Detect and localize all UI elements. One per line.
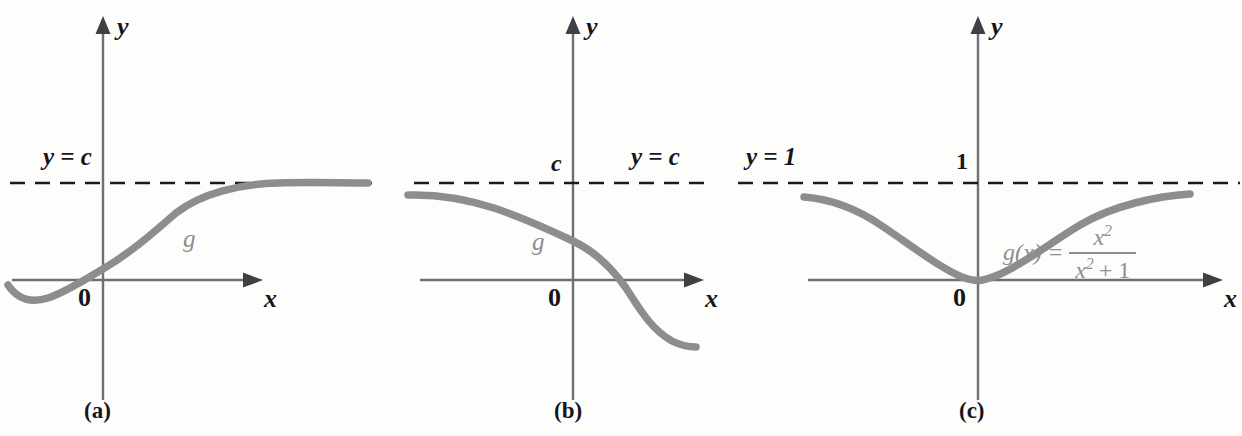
asymptote-label-text: y = c <box>631 143 680 170</box>
asymptote-figure: y x 0 y = c g (a) y x 0 c y = c g (b) <box>0 0 1242 436</box>
formula-denominator-rest: + 1 <box>1099 257 1131 283</box>
y-tick-label-c: c <box>551 150 562 177</box>
asymptote-label: y = c <box>43 143 92 171</box>
formula-numerator-exponent: 2 <box>1104 222 1112 239</box>
formula-numerator-base: x <box>1093 224 1104 250</box>
formula-numerator: x2 <box>1087 222 1118 252</box>
asymptote-label: y = 1 <box>746 143 796 171</box>
x-axis-label: x <box>264 284 277 314</box>
y-axis-label: y <box>586 12 598 42</box>
panel-a-graphic <box>0 0 414 436</box>
origin-label: 0 <box>78 283 91 313</box>
formula-lhs: g(x) <box>1003 239 1042 266</box>
panel-c-graphic <box>828 0 1242 436</box>
curve-label-g: g <box>532 228 545 256</box>
asymptote-label: y = c <box>631 143 680 171</box>
panel-caption: (c) <box>959 398 985 424</box>
formula-denominator-exponent: 2 <box>1086 255 1094 272</box>
asymptote-label-text: y = c <box>43 143 92 170</box>
panel-caption: (b) <box>554 398 582 424</box>
curve-g <box>408 195 696 347</box>
x-axis-label: x <box>705 284 718 314</box>
panel-b-graphic <box>414 0 828 436</box>
formula-equals: = <box>1049 239 1063 266</box>
formula-denominator: x2+ 1 <box>1069 254 1136 284</box>
x-axis-arrow <box>243 273 263 288</box>
x-axis-arrow <box>1203 273 1223 288</box>
formula-denominator-base: x <box>1075 257 1086 283</box>
panel-caption: (a) <box>84 398 111 424</box>
asymptote-label-text: y = 1 <box>746 143 796 170</box>
y-axis-arrow <box>566 16 581 34</box>
formula-fraction: x2 x2+ 1 <box>1069 222 1136 284</box>
origin-label: 0 <box>548 283 561 313</box>
panel-c: y x 0 1 y = 1 g(x) = x2 x2+ 1 (c) <box>828 0 1242 436</box>
x-axis-label: x <box>1224 284 1237 314</box>
origin-label: 0 <box>953 283 966 313</box>
panel-a: y x 0 y = c g (a) <box>0 0 414 436</box>
panel-b: y x 0 c y = c g (b) <box>414 0 828 436</box>
y-axis-label: y <box>991 12 1003 42</box>
function-formula: g(x) = x2 x2+ 1 <box>1003 222 1136 284</box>
y-axis-arrow <box>971 16 986 34</box>
curve-label-g: g <box>183 225 196 253</box>
y-tick-label-1: 1 <box>956 148 968 175</box>
y-axis-arrow <box>96 16 111 34</box>
x-axis-arrow <box>684 273 704 288</box>
y-axis-label: y <box>117 12 129 42</box>
